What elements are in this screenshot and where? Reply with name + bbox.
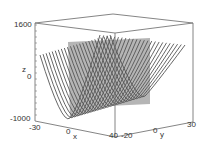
x-tick-minus-30: -30 <box>29 123 41 132</box>
3d-surface-plot: 1600 0 z -1000 -30 0 x 40 -20 0 y 30 <box>0 0 204 153</box>
x-tick-40: 40 <box>109 131 118 140</box>
y-tick-minus-20: -20 <box>121 131 133 140</box>
z-tick-1600: 1600 <box>14 20 32 29</box>
z-tick-minus-1000: -1000 <box>10 114 31 123</box>
x-tick-0: 0 <box>66 127 71 136</box>
y-tick-0: 0 <box>153 126 158 135</box>
x-axis-label: x <box>73 132 77 141</box>
z-tick-0: 0 <box>27 72 32 81</box>
y-tick-30: 30 <box>187 120 196 129</box>
z-axis-label: z <box>22 65 26 74</box>
y-axis-label: y <box>160 130 164 139</box>
